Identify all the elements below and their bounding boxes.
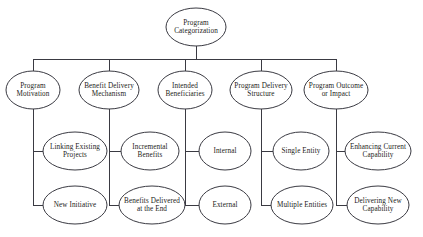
node-benefits-delivered-at-the-end-label: Benefits Delivered at the End [123,197,181,213]
node-benefits-delivered-at-the-end[interactable]: Benefits Delivered at the End [115,186,189,224]
node-internal-label: Internal [212,147,237,155]
node-program-delivery-structure[interactable]: Program Delivery Structure [226,71,296,109]
node-program-categorization[interactable]: Program Categorization [162,8,230,46]
node-program-delivery-structure-label: Program Delivery Structure [233,82,288,98]
node-new-initiative-label: New Initiative [53,201,98,209]
node-internal[interactable]: Internal [195,132,255,170]
node-single-entity[interactable]: Single Entity [269,132,333,170]
node-multiple-entities[interactable]: Multiple Entities [267,186,337,224]
node-program-outcome-or-impact-label: Program Outcome or Impact [308,82,364,98]
node-external-label: External [211,201,238,209]
node-program-outcome-or-impact[interactable]: Program Outcome or Impact [300,71,372,109]
node-external[interactable]: External [195,186,255,224]
node-intended-beneficiaries-label: Intended Beneficiaries [164,82,205,98]
node-new-initiative[interactable]: New Initiative [39,186,111,224]
node-single-entity-label: Single Entity [280,147,321,155]
node-delivering-new-capability[interactable]: Delivering New Capability [343,186,413,224]
node-program-motivation-label: Program Motivation [16,82,51,98]
program-categorization-diagram: Program CategorizationProgram Motivation… [0,0,423,237]
node-benefit-delivery-mechanism[interactable]: Benefit Delivery Mechanism [75,71,143,109]
node-enhancing-current-capability-label: Enhancing Current Capability [349,143,407,159]
node-enhancing-current-capability[interactable]: Enhancing Current Capability [341,132,415,170]
node-program-motivation[interactable]: Program Motivation [2,71,64,109]
node-linking-existing-projects[interactable]: Linking Existing Projects [39,132,111,170]
node-program-categorization-label: Program Categorization [173,19,219,35]
node-multiple-entities-label: Multiple Entities [276,201,328,209]
node-delivering-new-capability-label: Delivering New Capability [353,197,403,213]
node-benefit-delivery-mechanism-label: Benefit Delivery Mechanism [83,82,135,98]
node-linking-existing-projects-label: Linking Existing Projects [49,143,101,159]
node-incremental-benefits[interactable]: Incremental Benefits [117,132,183,170]
node-intended-beneficiaries[interactable]: Intended Beneficiaries [154,71,216,109]
node-incremental-benefits-label: Incremental Benefits [131,143,168,159]
